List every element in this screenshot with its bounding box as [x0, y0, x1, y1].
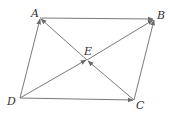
vector-EA — [41, 19, 87, 60]
vector-DE — [20, 60, 86, 98]
vector-DC — [20, 98, 133, 100]
vector-EB — [87, 20, 153, 60]
point-label-C: C — [136, 99, 145, 112]
vector-DA — [20, 19, 40, 98]
vector-CB — [134, 20, 154, 100]
vector-CE — [88, 61, 134, 100]
vector-AB — [40, 18, 153, 19]
point-label-D: D — [6, 95, 16, 108]
point-label-B: B — [156, 9, 165, 22]
parallelogram-diagram: A B C D E — [0, 0, 170, 113]
point-label-A: A — [30, 7, 39, 20]
point-label-E: E — [83, 45, 92, 58]
